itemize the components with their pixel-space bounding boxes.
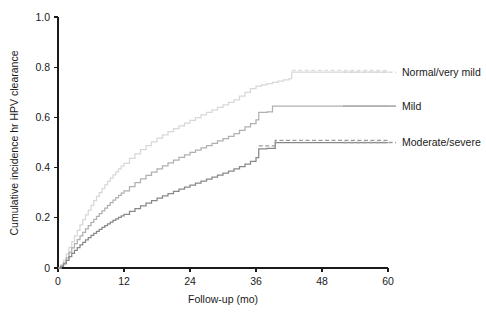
x-tick-label: 36 bbox=[250, 275, 262, 287]
y-axis-ticks: 00.20.40.60.81.0 bbox=[35, 11, 58, 274]
y-tick-label: 0.2 bbox=[35, 211, 50, 223]
x-tick-label: 48 bbox=[316, 275, 328, 287]
y-tick-label: 0.4 bbox=[35, 161, 50, 173]
chart-container: 00.20.40.60.81.0 01224364860 Cumulative … bbox=[0, 0, 486, 314]
legend-label-2: Moderate/severe bbox=[402, 136, 481, 148]
y-tick-label: 0.6 bbox=[35, 111, 50, 123]
legend-label-0: Normal/very mild bbox=[402, 66, 481, 78]
x-tick-label: 12 bbox=[118, 275, 130, 287]
y-axis-title: Cumulative incidence hr HPV clearance bbox=[8, 50, 20, 235]
chart-legend: Normal/very mildMildModerate/severe bbox=[343, 66, 481, 148]
x-axis-group: 01224364860 bbox=[55, 268, 394, 287]
x-tick-label: 0 bbox=[55, 275, 61, 287]
y-tick-label: 0 bbox=[44, 262, 50, 274]
series-line-0 bbox=[58, 72, 388, 268]
y-tick-label: 0.8 bbox=[35, 61, 50, 73]
x-axis-ticks: 01224364860 bbox=[55, 268, 394, 287]
y-axis-group: 00.20.40.60.81.0 bbox=[35, 11, 58, 274]
x-tick-label: 60 bbox=[382, 275, 394, 287]
legend-label-1: Mild bbox=[402, 100, 421, 112]
y-tick-label: 1.0 bbox=[35, 11, 50, 23]
x-axis-title: Follow-up (mo) bbox=[188, 293, 258, 305]
cumulative-incidence-chart: 00.20.40.60.81.0 01224364860 Cumulative … bbox=[0, 0, 486, 314]
x-tick-label: 24 bbox=[184, 275, 196, 287]
series-layer bbox=[58, 72, 388, 268]
series-line-1 bbox=[58, 106, 388, 268]
